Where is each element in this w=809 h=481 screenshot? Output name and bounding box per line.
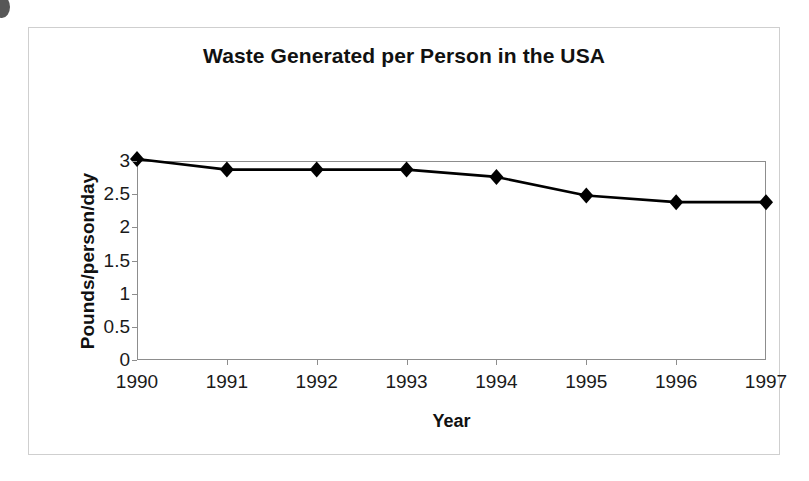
x-axis-tick-label: 1996 — [655, 371, 697, 393]
x-axis-tick-label: 1995 — [565, 371, 607, 393]
y-axis-title-label: Pounds/person/day — [77, 172, 99, 348]
x-axis-tick-mark — [317, 360, 318, 365]
series-markers — [130, 151, 773, 210]
data-point-marker — [400, 162, 414, 178]
y-axis-tick-label: 2.5 — [104, 183, 130, 205]
x-axis-tick-label: 1991 — [206, 371, 248, 393]
data-point-marker — [579, 187, 593, 203]
y-axis-tick-label: 1 — [119, 283, 130, 305]
x-axis-tick-label: 1993 — [385, 371, 427, 393]
y-axis-tick-mark — [132, 194, 137, 195]
x-axis-tick-label: 1994 — [475, 371, 517, 393]
x-axis-tick-mark — [407, 360, 408, 365]
data-point-marker — [759, 194, 773, 210]
data-point-marker — [489, 169, 503, 185]
x-axis-title: Year — [137, 411, 766, 432]
x-axis-tick-label: 1992 — [296, 371, 338, 393]
y-axis-tick-mark — [132, 261, 137, 262]
data-point-marker — [669, 194, 683, 210]
line-series — [137, 161, 766, 360]
y-axis-tick-mark — [132, 360, 137, 361]
figure-frame: Waste Generated per Person in the USA Po… — [28, 27, 780, 455]
y-axis-tick-mark — [132, 294, 137, 295]
y-axis-tick-label: 0 — [119, 349, 130, 371]
scan-artifact — [0, 0, 10, 18]
data-point-marker — [220, 162, 234, 178]
chart-title: Waste Generated per Person in the USA — [29, 44, 779, 68]
data-point-marker — [130, 151, 144, 167]
y-axis-tick-label: 1.5 — [104, 250, 130, 272]
y-axis-tick-label: 2 — [119, 216, 130, 238]
y-axis-tick-mark — [132, 227, 137, 228]
x-axis-tick-label: 1990 — [116, 371, 158, 393]
y-axis-tick-mark — [132, 161, 137, 162]
x-axis-tick-mark — [496, 360, 497, 365]
x-axis-tick-label: 1997 — [745, 371, 787, 393]
data-point-marker — [310, 162, 324, 178]
x-axis-tick-mark — [586, 360, 587, 365]
y-axis-tick-label: 3 — [119, 150, 130, 172]
y-axis-tick-label: 0.5 — [104, 316, 130, 338]
y-axis-tick-mark — [132, 327, 137, 328]
y-axis-title: Pounds/person/day — [75, 161, 101, 360]
series-line — [137, 159, 766, 202]
x-axis-tick-mark — [227, 360, 228, 365]
x-axis-tick-mark — [676, 360, 677, 365]
plot-area: 00.511.522.53199019911992199319941995199… — [137, 161, 766, 360]
